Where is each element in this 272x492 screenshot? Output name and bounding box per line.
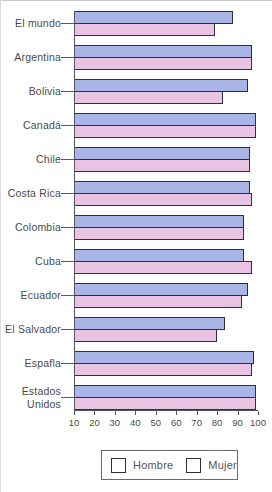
legend-swatch-hombre xyxy=(111,458,126,473)
category-tick xyxy=(61,329,74,330)
x-tick-70 xyxy=(197,411,198,415)
x-tick-label-30: 30 xyxy=(110,417,121,428)
category-label-costa-rica: Costa Rica xyxy=(1,187,61,200)
bar-group-el-salvador xyxy=(74,317,258,342)
category-row-argentina: Argentina xyxy=(1,45,272,70)
category-tick xyxy=(61,227,74,228)
x-tick-30 xyxy=(115,411,116,415)
x-tick-label-10: 10 xyxy=(69,417,80,428)
legend-label-hombre: Hombre xyxy=(133,459,173,471)
bar-group-el-mundo xyxy=(74,11,258,36)
x-tick-100 xyxy=(258,411,259,415)
bar-mujer-canadá xyxy=(74,125,256,138)
category-row-ecuador: Ecuador xyxy=(1,283,272,308)
category-label-cuba: Cuba xyxy=(1,255,61,268)
x-tick-label-100: 100 xyxy=(250,417,266,428)
bar-group-costa-rica xyxy=(74,181,258,206)
bar-group-cuba xyxy=(74,249,258,274)
bar-group-bolivia xyxy=(74,79,258,104)
bar-mujer-colombia xyxy=(74,227,244,240)
category-row-el-salvador: El Salvador xyxy=(1,317,272,342)
bar-group-chile xyxy=(74,147,258,172)
category-label-estados-unidos: Estados Unidos xyxy=(1,385,61,410)
bar-group-argentina xyxy=(74,45,258,70)
bar-mujer-el-salvador xyxy=(74,329,217,342)
bar-group-canadá xyxy=(74,113,258,138)
x-tick-80 xyxy=(217,411,218,415)
category-label-argentina: Argentina xyxy=(1,51,61,64)
bar-mujer-argentina xyxy=(74,57,252,70)
category-row-estados-unidos: Estados Unidos xyxy=(1,385,272,410)
category-label-espafla: Espafla xyxy=(1,357,61,370)
bar-group-estados-unidos xyxy=(74,385,258,410)
category-tick xyxy=(61,261,74,262)
category-row-espafla: Espafla xyxy=(1,351,272,376)
category-row-el-mundo: El mundo xyxy=(1,11,272,36)
x-axis: 102030405060708090100 xyxy=(74,410,258,437)
category-tick xyxy=(61,193,74,194)
bar-mujer-el-mundo xyxy=(74,23,215,36)
bar-group-ecuador xyxy=(74,283,258,308)
legend-label-mujer: Mujer xyxy=(208,459,237,471)
legend-swatch-mujer xyxy=(186,458,201,473)
category-tick xyxy=(61,159,74,160)
category-label-canadá: Canadá xyxy=(1,119,61,132)
x-tick-90 xyxy=(238,411,239,415)
x-tick-20 xyxy=(94,411,95,415)
x-tick-label-80: 80 xyxy=(212,417,223,428)
x-tick-label-70: 70 xyxy=(191,417,202,428)
category-row-canadá: Canadá xyxy=(1,113,272,138)
x-tick-label-60: 60 xyxy=(171,417,182,428)
bar-group-espafla xyxy=(74,351,258,376)
bar-mujer-ecuador xyxy=(74,295,242,308)
y-axis-line xyxy=(74,11,75,410)
x-tick-label-40: 40 xyxy=(130,417,141,428)
bar-mujer-costa-rica xyxy=(74,193,252,206)
category-row-chile: Chile xyxy=(1,147,272,172)
category-label-colombia: Colombia xyxy=(1,221,61,234)
x-tick-60 xyxy=(176,411,177,415)
legend: Hombre Mujer xyxy=(101,450,238,480)
x-tick-label-90: 90 xyxy=(232,417,243,428)
x-tick-10 xyxy=(74,411,75,415)
category-tick xyxy=(61,397,74,398)
literacy-bar-chart-page: El mundoArgentinaBoliviaCanadáChileCosta… xyxy=(0,0,272,492)
x-tick-50 xyxy=(156,411,157,415)
category-tick xyxy=(61,363,74,364)
category-row-bolivia: Bolivia xyxy=(1,79,272,104)
category-tick xyxy=(61,125,74,126)
category-label-ecuador: Ecuador xyxy=(1,289,61,302)
category-tick xyxy=(61,57,74,58)
bar-mujer-cuba xyxy=(74,261,252,274)
bar-chart-plot: El mundoArgentinaBoliviaCanadáChileCosta… xyxy=(1,1,272,410)
bar-mujer-estados-unidos xyxy=(74,397,256,410)
x-tick-40 xyxy=(135,411,136,415)
x-tick-label-20: 20 xyxy=(89,417,100,428)
category-tick xyxy=(61,295,74,296)
category-label-el-salvador: El Salvador xyxy=(1,323,61,336)
category-label-el-mundo: El mundo xyxy=(1,17,61,30)
bar-mujer-espafla xyxy=(74,363,252,376)
category-tick xyxy=(61,91,74,92)
category-label-chile: Chile xyxy=(1,153,61,166)
x-tick-label-50: 50 xyxy=(150,417,161,428)
category-tick xyxy=(61,23,74,24)
bar-mujer-bolivia xyxy=(74,91,223,104)
category-row-colombia: Colombia xyxy=(1,215,272,240)
category-label-bolivia: Bolivia xyxy=(1,85,61,98)
category-row-cuba: Cuba xyxy=(1,249,272,274)
bar-group-colombia xyxy=(74,215,258,240)
bar-mujer-chile xyxy=(74,159,250,172)
category-row-costa-rica: Costa Rica xyxy=(1,181,272,206)
